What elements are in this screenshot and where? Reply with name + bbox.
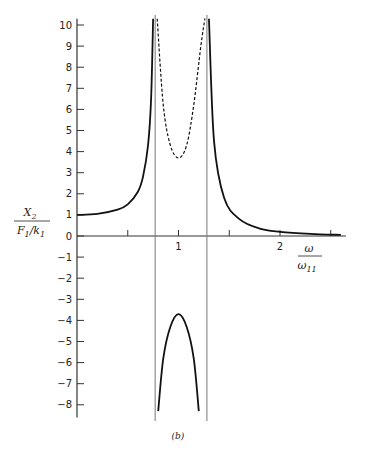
y-tick-label: 9: [66, 41, 72, 52]
y-tick-label: −8: [57, 399, 72, 410]
y-tick-label: 4: [66, 146, 72, 157]
y-tick-label: 2: [66, 188, 72, 199]
curve-response-middle: [158, 314, 199, 411]
y-tick-label: 10: [59, 20, 72, 31]
y-tick-label: 7: [66, 83, 72, 94]
y-axis-label: X2 F1/k1: [14, 206, 50, 239]
x-tick-label: 2: [277, 241, 283, 252]
svg-text:F1/k1: F1/k1: [16, 224, 45, 239]
y-tick-label: −2: [57, 273, 72, 284]
y-tick-label: 3: [66, 167, 72, 178]
y-tick-label: 0: [66, 231, 72, 242]
y-tick-label: −3: [57, 294, 72, 305]
y-tick-label: −4: [57, 315, 72, 326]
svg-text:X2: X2: [23, 206, 37, 221]
y-tick-label: −7: [57, 378, 72, 389]
curve-response-high: [209, 19, 341, 235]
y-tick-label: −5: [57, 336, 72, 347]
y-tick-label: 8: [66, 62, 72, 73]
response-curves: [77, 19, 341, 411]
y-tick-label: −6: [57, 357, 72, 368]
figure-caption: (b): [172, 431, 185, 441]
svg-text:ω11: ω11: [297, 259, 316, 274]
curve-response-middle-magnitude: [157, 19, 205, 158]
x-tick-label: 1: [175, 241, 181, 252]
curve-response-low: [77, 19, 153, 215]
svg-text:ω: ω: [305, 242, 314, 255]
frequency-response-chart: −8−7−6−5−4−3−2−101234567891012 X2 F1/k1 …: [0, 0, 378, 461]
y-tick-label: 6: [66, 104, 72, 115]
axes: −8−7−6−5−4−3−2−101234567891012: [57, 19, 346, 418]
y-tick-label: 5: [66, 125, 72, 136]
x-axis-label: ω ω11: [297, 242, 322, 274]
y-tick-label: −1: [57, 252, 72, 263]
y-tick-label: 1: [66, 209, 72, 220]
